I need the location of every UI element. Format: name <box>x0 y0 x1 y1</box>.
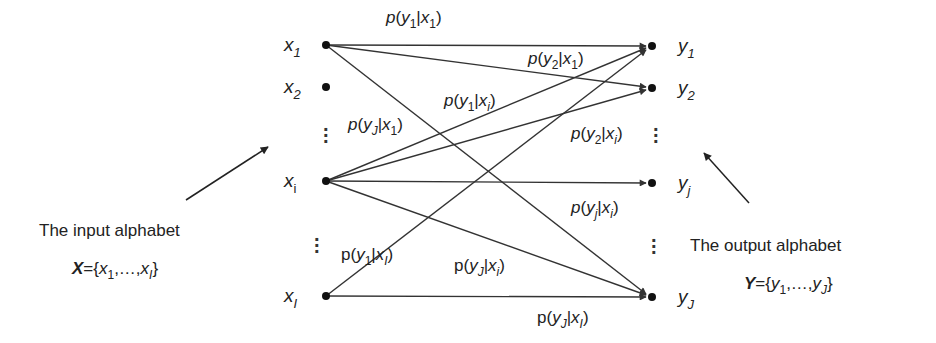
edge-xi-yj <box>326 181 646 183</box>
edge-label-p-yJ-xI: p(yJ|xI) <box>537 309 589 330</box>
label-yJ-base: y <box>678 286 688 307</box>
input-ellipsis-lower: ··· <box>314 236 320 254</box>
label-xI: xI <box>284 286 297 310</box>
label-yj-base: y <box>678 172 688 193</box>
label-y1-base: y <box>678 35 688 56</box>
label-x2: x2 <box>284 77 301 101</box>
label-y1-sub: 1 <box>688 46 695 61</box>
edge-label-p-y1-x1: p(y1|x1) <box>386 9 442 30</box>
label-yJ-sub: J <box>688 297 695 312</box>
edge-x1-y1 <box>326 45 646 46</box>
node-yJ <box>648 293 656 301</box>
output-ellipsis-upper: ··· <box>653 126 659 144</box>
label-yj-sub: j <box>688 183 691 198</box>
edge-label-p-y1-xI: p(y1|xI) <box>341 246 393 267</box>
edge-xi-y1 <box>326 48 646 181</box>
node-x2 <box>322 83 330 91</box>
input-alphabet-arrow <box>186 147 268 200</box>
node-x1 <box>322 41 330 49</box>
label-y2: y2 <box>678 78 695 102</box>
edge-label-p-yj-xi: p(yj|xi) <box>571 199 619 220</box>
input-ellipsis-upper: ··· <box>323 126 329 144</box>
output-alphabet-arrow <box>704 153 749 203</box>
output-alphabet-caption: The output alphabet <box>690 236 841 256</box>
edge-label-p-y2-x1: p(y2|x1) <box>528 50 584 71</box>
node-y2 <box>648 84 656 92</box>
output-alphabet-set: Y={y1,…,yJ} <box>744 274 833 297</box>
edge-label-p-yJ-x1: p(yJ|x1) <box>348 116 403 137</box>
label-y2-sub: 2 <box>688 88 695 103</box>
input-alphabet-set: X={x1,…,xI} <box>72 259 158 282</box>
edge-xI-yJ <box>326 296 646 297</box>
node-xI <box>322 292 330 300</box>
node-yj <box>648 179 656 187</box>
label-x1: x1 <box>284 35 301 59</box>
label-yj: yj <box>678 173 690 197</box>
label-x1-base: x <box>284 34 294 55</box>
label-yJ: yJ <box>678 287 694 311</box>
edge-x1-y2 <box>326 45 646 87</box>
node-y1 <box>648 42 656 50</box>
label-y2-base: y <box>678 77 688 98</box>
input-alphabet-caption: The input alphabet <box>39 221 180 241</box>
edge-label-p-y2-xi: p(y2|xi) <box>571 125 623 146</box>
label-x1-sub: 1 <box>294 45 301 60</box>
edge-label-p-yJ-xi: p(yJ|xi) <box>454 257 505 278</box>
label-xI-base: x <box>284 285 294 306</box>
label-y1: y1 <box>678 36 695 60</box>
node-xi <box>322 177 330 185</box>
label-xI-sub: I <box>294 296 298 311</box>
edge-label-p-y1-xi: p(y1|xi) <box>444 92 496 113</box>
label-xi: xi <box>284 171 296 195</box>
output-ellipsis-lower: ··· <box>651 237 657 255</box>
label-xi-sub: i <box>294 181 297 196</box>
label-x2-sub: 2 <box>294 87 301 102</box>
label-x2-base: x <box>284 76 294 97</box>
label-xi-base: x <box>284 170 294 191</box>
